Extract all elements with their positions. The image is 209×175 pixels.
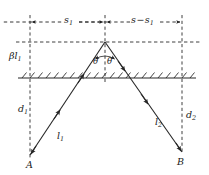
label-d1: d1 — [18, 104, 28, 115]
label-d2: d2 — [186, 110, 196, 121]
label-beta-l1: βl1 — [9, 51, 22, 62]
label-point-b: B — [177, 157, 184, 167]
ray-path-group — [30, 42, 182, 155]
ray-arrow-l2-upper — [118, 61, 125, 71]
ray-arrow-l1-lower — [54, 110, 60, 119]
ray-arrow-l2-lower — [141, 94, 148, 104]
ground-surface-group — [18, 73, 196, 79]
label-l1: l1 — [57, 131, 64, 142]
diagram-canvas — [0, 0, 209, 175]
label-theta: θ — [93, 57, 98, 66]
label-point-a: A — [26, 160, 33, 170]
vertical-guide-lines — [30, 15, 182, 158]
ray-arrow-terminal-b — [176, 143, 181, 151]
ground-hatch-marks — [22, 73, 195, 79]
ray-diagram-figure: s1 s−s1 βl1 d1 d2 l1 l2 θ θ′ A B — [0, 0, 209, 175]
label-theta-prime: θ′ — [107, 57, 114, 66]
dimension-label-s-minus-s1: s−s1 — [131, 15, 154, 26]
dimension-label-s1: s1 — [64, 15, 73, 26]
ray-arrow-terminal-a — [31, 146, 36, 154]
label-l2: l2 — [155, 117, 162, 128]
